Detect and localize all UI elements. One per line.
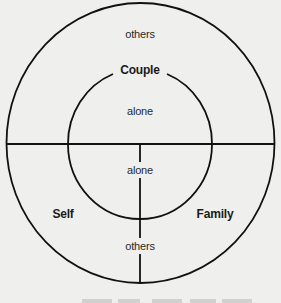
- label-couple: Couple: [120, 63, 159, 77]
- diagram-stage: others Couple alone alone Self Family ot…: [0, 0, 281, 303]
- inner-circle-upper-left-arc: [68, 74, 113, 144]
- label-outer-bottom-others: others: [125, 240, 154, 252]
- inner-circle-upper-right-arc: [167, 74, 212, 144]
- concentric-circles-diagram: [0, 0, 281, 303]
- clipped-caption: [0, 297, 281, 303]
- label-family: Family: [197, 207, 234, 221]
- label-inner-top-alone: alone: [127, 105, 153, 117]
- label-outer-top-others: others: [125, 28, 154, 40]
- label-self: Self: [52, 207, 73, 221]
- label-inner-bottom-alone: alone: [127, 164, 153, 176]
